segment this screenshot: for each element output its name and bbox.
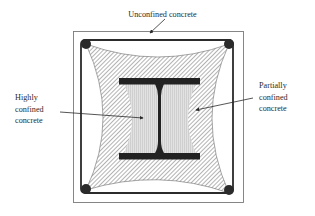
highly-confined-line-2: confined: [15, 104, 44, 116]
rebar-top-left: [81, 39, 91, 49]
rebar-bottom-right: [224, 185, 234, 195]
highly-confined-concrete-label: Highly confined concrete: [15, 92, 44, 127]
rebar-bottom-left: [81, 184, 91, 194]
partially-confined-line-1: Partially: [259, 80, 288, 92]
partially-confined-concrete-label: Partially confined concrete: [259, 80, 288, 115]
highly-confined-line-1: Highly: [15, 92, 44, 104]
rebar-top-right: [224, 39, 234, 49]
unconfined-concrete-label: Unconfined concrete: [0, 9, 315, 21]
partially-confined-line-2: confined: [259, 92, 288, 104]
highly-confined-line-3: concrete: [15, 115, 44, 127]
unconfined-leader: [150, 19, 165, 33]
partially-confined-line-3: concrete: [259, 103, 288, 115]
